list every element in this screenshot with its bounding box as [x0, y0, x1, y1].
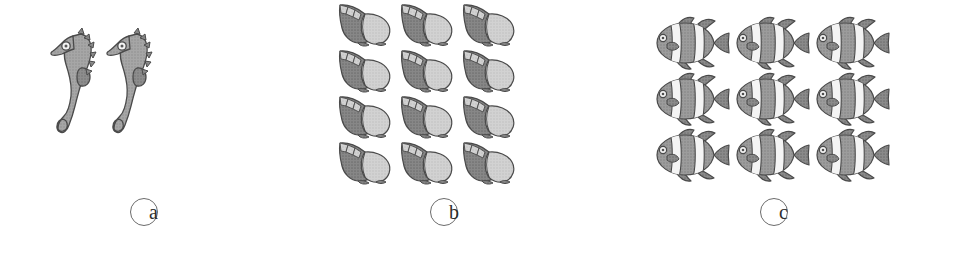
fish-specimen-area — [600, 0, 960, 195]
fish-grid — [652, 14, 892, 182]
shell-specimen-area — [300, 0, 600, 195]
panel-label-badge-c: c — [760, 198, 800, 232]
shell-icon — [398, 140, 454, 186]
panel-label-badge-a: a — [130, 198, 170, 232]
clownfish-icon — [648, 14, 732, 72]
shell-icon — [460, 140, 516, 186]
shell-icon — [398, 94, 454, 140]
clownfish-icon — [648, 70, 732, 128]
clownfish-icon — [808, 126, 892, 184]
shell-icon — [460, 94, 516, 140]
clownfish-icon — [808, 14, 892, 72]
shell-grid — [336, 2, 516, 186]
panel-b-label-wrap: b — [300, 198, 600, 246]
seahorse-grid — [48, 24, 154, 150]
shell-icon — [398, 2, 454, 48]
panel-label-a: a — [149, 201, 158, 223]
shell-icon — [336, 2, 392, 48]
seahorse-icon — [48, 24, 98, 150]
shell-icon — [460, 2, 516, 48]
shell-icon — [460, 48, 516, 94]
shell-icon — [336, 94, 392, 140]
panel-label-badge-b: b — [430, 198, 470, 232]
panel-a-label-wrap: a — [0, 198, 300, 246]
seahorse-icon — [104, 24, 154, 150]
seahorse-specimen-area — [0, 0, 300, 195]
shell-icon — [336, 140, 392, 186]
shell-icon — [398, 48, 454, 94]
shell-icon — [336, 48, 392, 94]
clownfish-icon — [728, 70, 812, 128]
panel-a-seahorses: a — [0, 0, 300, 270]
panel-label-c: c — [779, 201, 788, 223]
clownfish-icon — [728, 14, 812, 72]
clownfish-icon — [808, 70, 892, 128]
figure-root: a — [0, 0, 960, 270]
panel-label-b: b — [449, 201, 459, 223]
panel-b-shells: b — [300, 0, 600, 270]
clownfish-icon — [648, 126, 732, 184]
clownfish-icon — [728, 126, 812, 184]
panel-c-clownfish: c — [600, 0, 960, 270]
panel-c-label-wrap: c — [600, 198, 960, 246]
